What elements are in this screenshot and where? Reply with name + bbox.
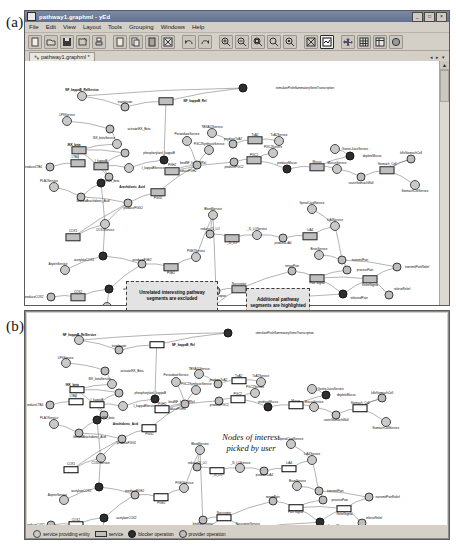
graph-node-lpsservice[interactable] [62,116,72,126]
graph-node-killsstomachcell[interactable] [407,155,416,164]
graph-node-txa2[interactable] [248,136,263,144]
maximize-button[interactable]: □ [424,12,435,22]
graph-node-pgg2[interactable] [151,188,166,196]
graph-node-arachidonic-acid[interactable] [92,416,101,425]
graph-node-pge2[interactable] [164,263,179,271]
paste-button[interactable] [145,35,159,49]
graph-node-gastricjuiceservice[interactable] [330,144,340,154]
graph-node-relieveofpain[interactable] [315,518,324,525]
graph-node-pgc2service[interactable] [268,148,278,158]
graph-node-i5-loservice[interactable] [252,230,262,240]
graph-canvas-a[interactable]: NF_kappaB_RelServicestimulateProInflamma… [25,61,449,305]
zoom-out-button[interactable] [235,35,249,49]
graph-node-producemucus[interactable] [283,165,292,174]
menu-layout[interactable]: Layout [83,24,101,30]
graph-node-peroxidaseservice[interactable] [182,136,192,146]
scroll-up-arrow[interactable]: ▲ [440,61,449,70]
tab-menu-button[interactable]: ▾ [442,54,445,60]
close-button[interactable]: × [436,12,447,22]
graph-node-mucusservice[interactable] [309,402,319,412]
graph-node-reliefsignal[interactable] [363,275,378,283]
cut-button[interactable] [113,35,127,49]
save-document-button[interactable] [60,35,74,49]
graph-node-pgh2[interactable] [165,167,180,175]
graph-node-spinalcordservice[interactable] [307,204,317,214]
graph-node-pgh2[interactable] [155,405,170,413]
properties-button[interactable] [389,35,403,49]
graph-node-stimulateproinflammatorygenetranscription[interactable] [239,84,248,93]
graph-canvas-b[interactable]: NF_kappaB_RelServicestimulateProInflamma… [27,313,447,525]
undo-button[interactable] [182,35,196,49]
graph-node-phosphorylatei-kappab[interactable] [115,388,124,397]
graph-node-ltb4[interactable] [71,159,86,167]
zoom-area-button[interactable] [251,35,265,49]
graph-node-tbxa01service[interactable] [207,128,217,138]
graph-node-acetylatecox2[interactable] [100,513,109,522]
graph-node-i5-loservice[interactable] [235,463,245,473]
graph-node-acetylatecox2[interactable] [105,285,114,294]
menu-help[interactable]: Help [192,24,204,30]
copy-button[interactable] [129,35,143,49]
graph-node-produceltb4[interactable] [46,163,55,172]
open-document-button[interactable] [44,35,58,49]
graph-node-stomach-cell[interactable] [353,404,368,412]
table-layout-button[interactable] [373,35,387,49]
tab-next-button[interactable]: ▸ [436,54,439,60]
menu-file[interactable]: File [29,24,39,30]
graph-node-lpsservice[interactable] [61,358,71,368]
graph-node-pgc2synthaseservice[interactable] [204,145,214,155]
fit-content-button[interactable] [304,35,318,49]
new-document-button[interactable] [28,35,42,49]
graph-node-brainservice[interactable] [314,250,324,260]
graph-node-stimulateproinflammatorygenetranscription[interactable] [223,328,232,337]
graph-node-killsstomachcell[interactable] [378,394,387,403]
graph-node-stomach-cell[interactable] [380,166,395,174]
graph-node-bloodservice[interactable] [208,210,218,220]
graph-node-producecox2[interactable] [47,293,56,302]
menu-view[interactable]: View [63,24,76,30]
graph-node-i-kappabservice[interactable] [124,163,134,173]
grid-button[interactable] [357,35,371,49]
menu-grouping[interactable]: Grouping [129,24,154,30]
graph-node-brainservice[interactable] [292,481,302,491]
graph-node-ltb4[interactable] [68,398,83,406]
vertical-scrollbar-a[interactable]: ▲ [439,61,449,305]
graph-node-phosphorylatei-kappab[interactable] [121,149,130,158]
graph-node-relieveofpain[interactable] [339,290,348,299]
redo-button[interactable] [198,35,212,49]
graph-node-nf-kappab-rel[interactable] [159,97,174,105]
graph-node-lta4service[interactable] [330,221,340,231]
graph-node-tbxa01service[interactable] [194,369,204,379]
print-button[interactable] [92,35,106,49]
minimize-button[interactable]: _ [412,12,423,22]
graph-node-cox1[interactable] [66,233,81,241]
menu-tools[interactable]: Tools [108,24,122,30]
graph-node-activateikk-beta[interactable] [106,125,115,134]
tab-pathway1[interactable]: pathway1.graphml * [29,52,95,62]
graph-node-transmitpain[interactable] [338,256,347,265]
zoom-in-button[interactable] [219,35,233,49]
graph-node-pgc2synthaseservice[interactable] [191,385,201,395]
graph-node-producecox2[interactable] [46,521,55,525]
graph-node-produceltb4[interactable] [46,401,55,410]
graph-node-lta4[interactable] [303,232,318,240]
zoom-original-button[interactable] [267,35,281,49]
graph-node-processpain[interactable] [319,496,328,505]
menu-edit[interactable]: Edit [46,24,56,30]
graph-node-pgc2[interactable] [247,156,262,164]
graph-node-i-kappab[interactable] [94,162,109,170]
graph-node-lta4[interactable] [282,465,297,473]
graph-node-arachidonic-acid[interactable] [97,179,106,188]
graph-node-producemucus[interactable] [264,403,273,412]
graph-node-nociceptor[interactable] [232,285,247,293]
graph-node-mucus[interactable] [310,163,325,171]
graph-node-lta4service[interactable] [307,455,317,465]
graph-node-ikk-betaservice[interactable] [112,139,122,149]
graph-node-aspirinservice[interactable] [60,265,70,275]
menu-windows[interactable]: Windows [161,24,185,30]
graph-node-aspirinservice[interactable] [59,495,69,505]
graph-node-nf-kappab-relservice[interactable] [74,335,84,345]
tab-prev-button[interactable]: ◂ [430,54,433,60]
graph-node-pge2service[interactable] [191,252,201,262]
zoom-selection-button[interactable] [283,35,297,49]
